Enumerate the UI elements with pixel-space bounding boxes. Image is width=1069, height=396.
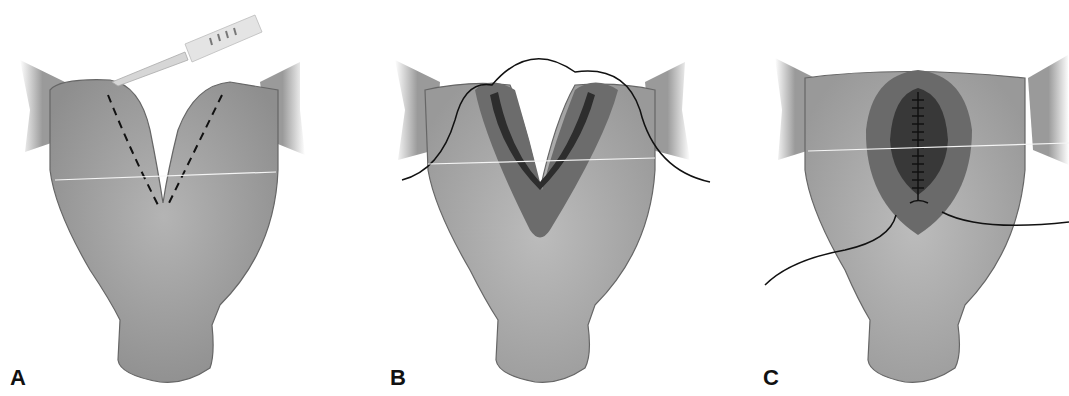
panel-c: C — [750, 0, 1069, 396]
uterus-illustration-c — [750, 0, 1069, 396]
panel-label-a: A — [10, 365, 26, 391]
panel-label-b: B — [390, 365, 406, 391]
uterus-illustration-a — [0, 0, 360, 396]
panel-label-c: C — [763, 365, 779, 391]
panel-a: A — [0, 0, 360, 396]
scalpel-icon — [112, 15, 262, 86]
uterus-illustration-b — [380, 0, 720, 396]
panel-b: B — [380, 0, 720, 396]
